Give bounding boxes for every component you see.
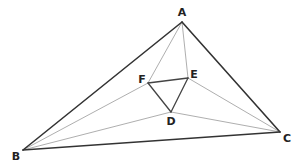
label-d: D — [166, 115, 175, 128]
side-bc — [23, 132, 280, 150]
side-de — [171, 78, 188, 112]
morley-triangle-diagram: A B C D E F — [0, 0, 301, 167]
outer-triangle-abc — [23, 22, 280, 150]
segment-ce — [188, 78, 280, 132]
side-ab — [23, 22, 182, 150]
trisector-lines — [23, 22, 280, 150]
inner-triangle-def — [148, 78, 188, 112]
label-a: A — [178, 6, 187, 19]
side-fd — [148, 83, 171, 112]
label-e: E — [190, 68, 198, 81]
label-c: C — [283, 132, 291, 145]
segment-ae — [182, 22, 188, 78]
vertex-labels: A B C D E F — [12, 6, 291, 163]
segment-bf — [23, 83, 148, 150]
segment-cd — [171, 112, 280, 132]
label-b: B — [12, 150, 20, 163]
segment-af — [148, 22, 182, 83]
label-f: F — [138, 73, 146, 86]
side-ef — [148, 78, 188, 83]
